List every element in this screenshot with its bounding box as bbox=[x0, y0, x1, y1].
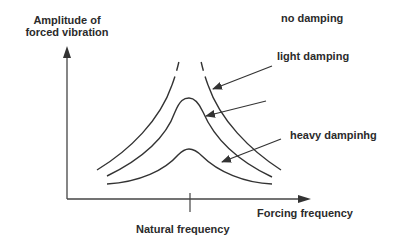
label-heavy-damping: heavy dampinhg bbox=[290, 129, 377, 141]
x-axis bbox=[67, 195, 311, 203]
label-light-damping: light damping bbox=[277, 50, 349, 62]
x-axis-arrowhead-icon bbox=[298, 195, 311, 203]
label-no-damping: no damping bbox=[281, 12, 343, 24]
y-axis-label: Amplitude of forced vibration bbox=[18, 14, 116, 38]
callout-arrow-no-damping bbox=[213, 66, 272, 89]
x-axis-label: Forcing frequency bbox=[257, 207, 353, 219]
y-axis-label-line2: forced vibration bbox=[18, 26, 116, 38]
y-axis bbox=[63, 46, 71, 199]
natural-frequency-label: Natural frequency bbox=[136, 223, 230, 235]
y-axis-arrowhead-icon bbox=[63, 46, 71, 58]
y-axis-label-line1: Amplitude of bbox=[18, 14, 116, 26]
curve-light-damping bbox=[107, 98, 272, 177]
curve-no-damping bbox=[97, 57, 281, 170]
callout-arrow-light-damping bbox=[206, 101, 266, 116]
curve-heavy-damping bbox=[107, 149, 272, 184]
